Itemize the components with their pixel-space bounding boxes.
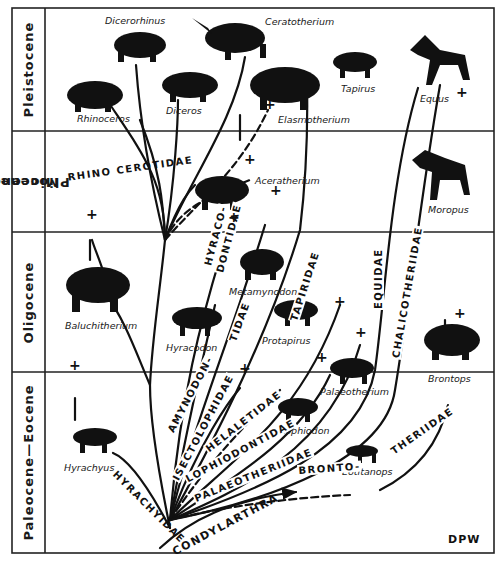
genus-protapirus: Protapirus	[262, 335, 311, 346]
extinction-marker: +	[269, 185, 284, 196]
extinction-marker: +	[333, 296, 348, 307]
extinction-marker: +	[354, 327, 369, 338]
epoch-oligocene: Oligocene	[12, 232, 45, 372]
genus-equus: Equus	[420, 93, 449, 104]
genus-ceratotherium: Ceratotherium	[265, 16, 334, 27]
equus-silhouette	[410, 35, 470, 85]
epoch-pleistocene: Pleistocene	[12, 8, 45, 131]
palaeotherium-silhouette	[330, 358, 374, 378]
genus-dicerorhinus: Dicerorhinus	[105, 15, 165, 26]
genus-aceratherium: Aceratherium	[255, 175, 320, 186]
genus-diceros: Diceros	[166, 105, 202, 116]
genus-moropus: Moropus	[428, 204, 469, 215]
genus-rhinoceros: Rhinoceros	[77, 113, 130, 124]
extinction-marker: +	[238, 363, 253, 374]
epoch-miocene-pliocene: Miocene-Pliocene	[12, 131, 45, 232]
genus-palaeotherium: Palaeotherium	[320, 386, 389, 397]
genus-elasmotherium: Elasmotherium	[278, 114, 350, 125]
extinction-marker: +	[455, 87, 470, 98]
extinction-marker: +	[263, 99, 278, 110]
genus-hyracodon: Hyracodon	[166, 342, 217, 353]
extinction-marker: +	[243, 154, 258, 165]
moropus-silhouette	[412, 150, 470, 200]
genus-brontops: Brontops	[428, 373, 471, 384]
tapirus-silhouette	[333, 52, 377, 72]
extinction-marker: +	[68, 360, 83, 371]
hyracodon-silhouette	[172, 307, 222, 329]
family-equidae: EQUIDAE	[373, 247, 384, 310]
genus-metamynodon: Metamynodon	[229, 286, 297, 297]
extinction-marker: +	[227, 212, 242, 223]
hyrachyus-silhouette	[73, 428, 117, 446]
extinction-marker: +	[315, 352, 330, 363]
genus-tapirus: Tapirus	[341, 83, 375, 94]
extinction-marker: +	[85, 209, 100, 220]
lophiodon-silhouette	[278, 398, 318, 416]
genus-baluchitherium: Baluchitherium	[65, 320, 137, 331]
genus-hyrachyus: Hyrachyus	[64, 462, 114, 473]
epoch-paleocene-eocene: Paleocene—Eocene	[12, 372, 45, 553]
phylogeny-diagram: Pleistocene Miocene-Pliocene Oligocene P…	[0, 0, 501, 562]
artist-credit: DPW	[448, 533, 480, 546]
extinction-marker: +	[453, 308, 468, 319]
ceratotherium-silhouette	[205, 23, 265, 53]
